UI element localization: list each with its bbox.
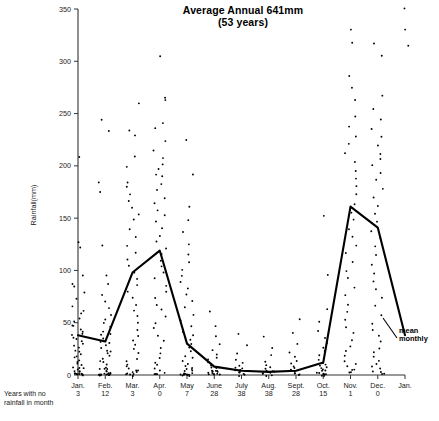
scatter-point [154, 127, 156, 129]
y-tick-label: 100 [59, 266, 71, 275]
scatter-point [132, 297, 134, 299]
scatter-point [354, 161, 356, 163]
scatter-point [127, 182, 129, 184]
scatter-point [107, 352, 109, 354]
scatter-point [370, 230, 372, 232]
scatter-point [379, 153, 381, 155]
scatter-point [161, 309, 163, 311]
scatter-point [103, 322, 105, 324]
scatter-point [154, 277, 156, 279]
scatter-point [355, 363, 357, 365]
scatter-point [154, 373, 156, 375]
y-tick-label: 350 [59, 5, 71, 14]
scatter-point [347, 304, 349, 306]
scatter-point [102, 361, 104, 363]
scatter-point [351, 87, 353, 89]
scatter-point [180, 281, 182, 283]
scatter-point [134, 156, 136, 158]
scatter-point [138, 102, 140, 104]
scatter-point [79, 371, 81, 373]
scatter-point [344, 355, 346, 357]
scatter-point [271, 347, 273, 349]
scatter-point [217, 371, 219, 373]
scatter-point [108, 342, 110, 344]
scatter-point [353, 332, 355, 334]
scatter-point [126, 365, 128, 367]
scatter-point [136, 315, 138, 317]
scatter-point [76, 373, 78, 375]
scatter-point [212, 349, 214, 351]
scatter-point [355, 245, 357, 247]
scatter-point [104, 318, 106, 320]
y-axis: 050100150200250300350 [59, 5, 78, 380]
dry-month-count-5: 28 [210, 389, 218, 398]
scatter-point [380, 119, 382, 121]
scatter-point [163, 272, 165, 274]
scatter-point [346, 311, 348, 313]
scatter-point [164, 197, 166, 199]
scatter-point [377, 145, 379, 147]
scatter-point [187, 287, 189, 289]
scatter-point [105, 370, 107, 372]
scatter-point [327, 274, 329, 276]
dry-caption-line2: rainfall in month [4, 399, 54, 406]
scatter-point [188, 375, 190, 377]
scatter-point [237, 333, 239, 335]
scatter-point [109, 333, 111, 335]
scatter-point [294, 372, 296, 374]
scatter-point [238, 365, 240, 367]
scatter-point [156, 373, 158, 375]
scatter-point [82, 331, 84, 333]
scatter-point [190, 343, 192, 345]
scatter-point [215, 335, 217, 337]
scatter-point [373, 280, 375, 282]
x-tick-label-12: Jan. [398, 381, 412, 390]
scatter-point [322, 347, 324, 349]
scatter-point [129, 193, 131, 195]
y-axis-label: Rainfall(mm) [29, 185, 38, 226]
scatter-point [156, 304, 158, 306]
scatter-point [371, 323, 373, 325]
scatter-point [162, 163, 164, 165]
scatter-point [128, 200, 130, 202]
scatter-point [136, 329, 138, 331]
scatter-point [215, 325, 217, 327]
scatter-points [71, 7, 409, 377]
y-tick-label: 200 [59, 161, 71, 170]
scatter-point [265, 368, 267, 370]
scatter-point [404, 7, 406, 9]
scatter-point [159, 55, 161, 57]
scatter-point [73, 345, 75, 347]
scatter-point [81, 340, 83, 342]
scatter-point [71, 305, 73, 307]
scatter-point [81, 374, 83, 376]
scatter-point [318, 359, 320, 361]
scatter-point [355, 193, 357, 195]
scatter-point [106, 368, 108, 370]
scatter-point [344, 360, 346, 362]
scatter-point [346, 365, 348, 367]
scatter-point [326, 366, 328, 368]
scatter-point [156, 241, 158, 243]
scatter-point [323, 375, 325, 377]
scatter-point [355, 185, 357, 187]
scatter-point [184, 306, 186, 308]
chart-title: Average Annual 641mm [183, 4, 303, 16]
scatter-point [235, 359, 237, 361]
scatter-point [296, 343, 298, 345]
scatter-point [187, 219, 189, 221]
scatter-point [191, 300, 193, 302]
y-tick-label: 50 [63, 318, 71, 327]
scatter-point [160, 183, 162, 185]
scatter-point [181, 375, 183, 377]
scatter-point [132, 371, 134, 373]
scatter-point [377, 205, 379, 207]
scatter-point [159, 370, 161, 372]
scatter-point [126, 186, 128, 188]
scatter-point [354, 116, 356, 118]
scatter-point [345, 326, 347, 328]
scatter-point [137, 352, 139, 354]
scatter-point [137, 322, 139, 324]
scatter-point [184, 370, 186, 372]
scatter-point [83, 292, 85, 294]
